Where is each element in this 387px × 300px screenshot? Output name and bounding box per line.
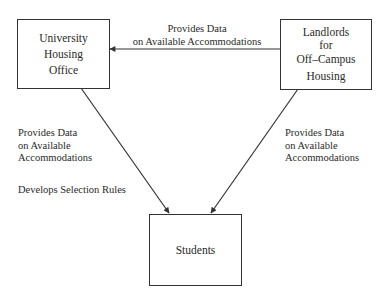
node-label-line: Landlords (303, 26, 350, 39)
node-label-line: Office (49, 62, 78, 78)
node-label-line: University (39, 30, 88, 46)
node-label-line: Off–Campus (296, 52, 355, 67)
node-label-line: Housing (44, 46, 83, 62)
node-label-line: Students (176, 242, 216, 258)
node-label-line: for (319, 39, 332, 52)
node-label-line: Housing (307, 67, 346, 85)
edge-label-develops-selection-rules: Develops Selection Rules (18, 184, 126, 197)
node-students: Students (149, 214, 242, 286)
edge-label-landlords-to-students: Provides Data on Available Accommodation… (285, 127, 359, 165)
node-landlords: Landlords for Off–Campus Housing (280, 19, 372, 90)
node-university-housing-office: University Housing Office (17, 19, 110, 89)
edge-label-landlords-to-office: Provides Data on Available Accommodation… (122, 23, 272, 48)
edge-label-office-to-students: Provides Data on Available Accommodation… (18, 127, 92, 165)
